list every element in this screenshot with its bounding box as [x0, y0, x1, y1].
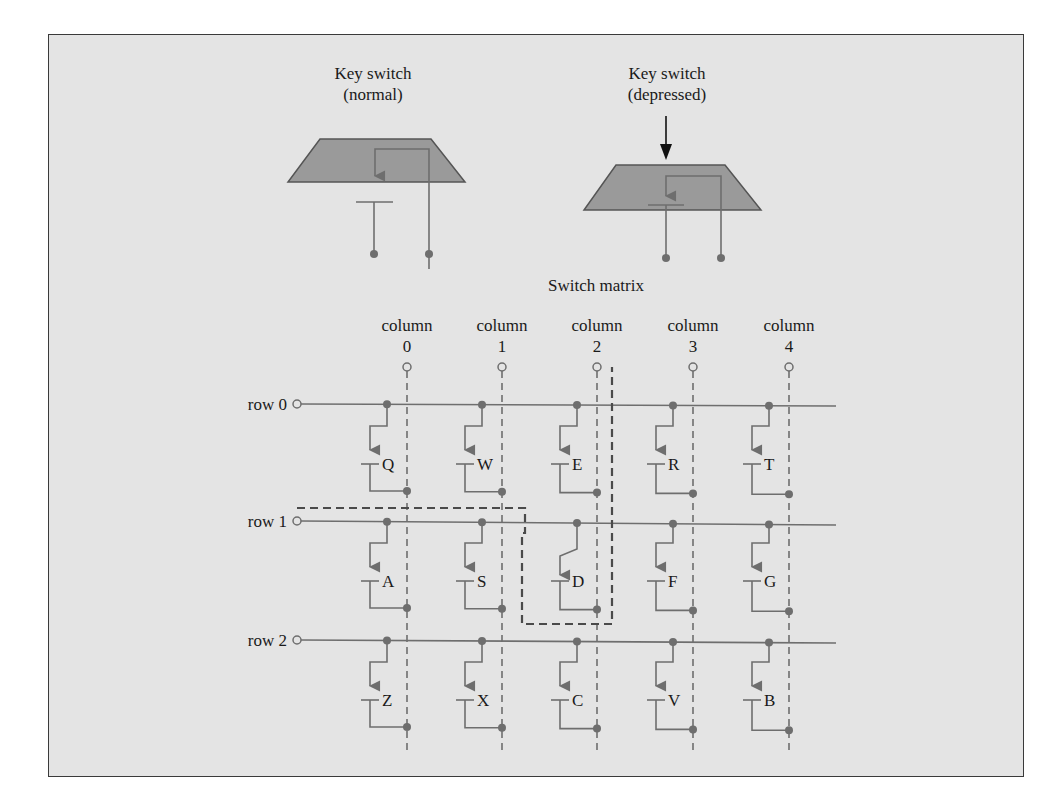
junction-dot	[669, 401, 677, 409]
column-2: column2	[572, 316, 623, 752]
key-switch-normal-subtitle: (normal)	[343, 85, 402, 104]
key-switch-Q: Q	[361, 400, 411, 495]
key-label: E	[572, 455, 582, 474]
key-label: C	[572, 691, 583, 710]
junction-dot	[785, 490, 793, 498]
switch-wire	[656, 642, 673, 686]
junction-dot	[498, 488, 506, 496]
column-4: column4	[764, 316, 815, 752]
key-label: B	[764, 691, 775, 710]
keycap-shape	[288, 139, 465, 182]
key-switch-normal: Key switch (normal)	[288, 64, 465, 269]
key-switch-G: G	[743, 520, 793, 615]
key-label: T	[764, 455, 775, 474]
column-index: 2	[593, 337, 602, 356]
row-terminal-icon	[293, 400, 301, 408]
junction-dot	[573, 401, 581, 409]
key-label: Q	[382, 455, 394, 474]
key-switch-A: A	[361, 518, 411, 612]
key-label: W	[477, 455, 494, 474]
press-arrow-icon	[660, 144, 672, 160]
row-line	[301, 404, 836, 406]
column-label: column	[764, 316, 815, 335]
key-switch-depressed: Key switch (depressed)	[584, 64, 761, 262]
junction-dot	[498, 605, 506, 613]
junction-dot	[403, 604, 411, 612]
column-0: column0	[382, 316, 433, 752]
row-2: row 2ZXCVB	[248, 631, 836, 734]
key-switch-X: X	[456, 637, 506, 732]
key-switch-W: W	[456, 401, 506, 496]
key-switch-V: V	[647, 638, 697, 733]
junction-dot	[669, 638, 677, 646]
junction-dot	[498, 724, 506, 732]
row-line	[301, 521, 836, 525]
key-label: S	[477, 572, 486, 591]
junction-dot	[785, 607, 793, 615]
switch-wire	[656, 405, 673, 450]
column-terminal-icon	[403, 363, 411, 371]
junction-dot	[383, 636, 391, 644]
junction-dot	[383, 518, 391, 526]
column-1: column1	[477, 316, 528, 752]
switch-wire	[465, 641, 482, 686]
key-label: G	[764, 572, 776, 591]
switch-wire	[752, 406, 769, 450]
junction-dot	[593, 606, 601, 614]
key-switch-depressed-title: Key switch	[629, 64, 706, 83]
key-label: F	[668, 572, 677, 591]
junction-dot	[593, 489, 601, 497]
key-switch-C: C	[551, 638, 601, 733]
column-index: 4	[785, 337, 794, 356]
junction-dot	[765, 520, 773, 528]
column-label: column	[572, 316, 623, 335]
junction-dot	[403, 723, 411, 731]
column-label: column	[382, 316, 433, 335]
key-switch-R: R	[647, 401, 697, 497]
junction-dot	[573, 519, 581, 527]
column-terminal-icon	[593, 363, 601, 371]
junction-dot	[478, 637, 486, 645]
column-label: column	[668, 316, 719, 335]
terminal-dot	[717, 254, 725, 262]
switch-wire	[752, 524, 769, 567]
keyboard-switch-matrix-diagram: Key switch (normal) Key switch (depresse…	[0, 0, 1058, 810]
switch-wire	[370, 522, 387, 567]
switch-matrix-title: Switch matrix	[548, 276, 644, 295]
key-label: R	[668, 455, 680, 474]
column-terminal-icon	[785, 363, 793, 371]
key-switch-E: E	[551, 401, 601, 497]
junction-dot	[383, 400, 391, 408]
junction-dot	[593, 725, 601, 733]
key-label: D	[572, 572, 584, 591]
key-switch-Z: Z	[361, 636, 411, 731]
junction-dot	[478, 401, 486, 409]
switch-wire	[370, 640, 387, 686]
junction-dot	[765, 402, 773, 410]
switch-wire	[656, 524, 673, 567]
switch-wire	[560, 523, 577, 575]
junction-dot	[785, 726, 793, 734]
row-0: row 0QWERT	[248, 395, 836, 498]
row-label: row 2	[248, 631, 287, 650]
row-line	[301, 640, 836, 643]
row-terminal-icon	[293, 636, 301, 644]
row-label: row 0	[248, 395, 287, 414]
switch-wire	[465, 405, 482, 450]
key-switch-D: D	[551, 519, 601, 614]
junction-dot	[573, 638, 581, 646]
column-terminal-icon	[689, 363, 697, 371]
key-switch-T: T	[743, 402, 793, 498]
key-label: A	[382, 572, 395, 591]
switch-wire	[370, 404, 387, 450]
junction-dot	[689, 725, 697, 733]
junction-dot	[689, 606, 697, 614]
key-switch-S: S	[456, 518, 506, 612]
terminal-dot	[425, 250, 433, 258]
row-terminal-icon	[293, 517, 301, 525]
column-index: 0	[403, 337, 412, 356]
key-switch-F: F	[647, 520, 697, 615]
row-label: row 1	[248, 512, 287, 531]
row-1: row 1ASDFG	[248, 512, 836, 615]
column-index: 3	[689, 337, 698, 356]
